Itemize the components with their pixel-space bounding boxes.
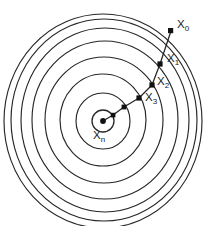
label-x3-sub: 3 bbox=[153, 97, 158, 106]
figure-canvas: X0 X1 X2 X3 Xn bbox=[0, 0, 223, 226]
iterate-marker-x2 bbox=[149, 82, 154, 87]
label-xn: Xn bbox=[93, 129, 105, 144]
iterate-marker-x3 bbox=[136, 95, 141, 100]
label-x2-sub: 2 bbox=[165, 81, 170, 90]
iterate-marker-x0 bbox=[168, 28, 173, 33]
label-x2: X2 bbox=[157, 75, 170, 90]
iterate-marker-4 bbox=[122, 105, 127, 110]
contour-convergence-figure: X0 X1 X2 X3 Xn bbox=[0, 0, 223, 226]
iterate-marker-5 bbox=[111, 113, 116, 118]
label-x3: X3 bbox=[145, 91, 158, 106]
label-x0: X0 bbox=[177, 18, 190, 33]
label-x0-sub: 0 bbox=[185, 24, 190, 33]
label-xn-sub: n bbox=[101, 135, 105, 144]
iterate-marker-x1 bbox=[157, 61, 162, 66]
label-x1-sub: 1 bbox=[175, 58, 180, 67]
center-marker-xn bbox=[100, 118, 106, 124]
label-x1: X1 bbox=[167, 52, 180, 67]
